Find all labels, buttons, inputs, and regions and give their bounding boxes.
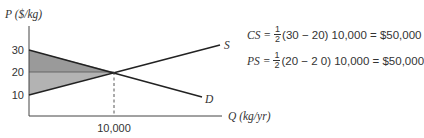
ps-rhs: (20 − 2 0) 10,000 = $50,000 xyxy=(281,55,424,67)
y-axis-label: P ($/kg) xyxy=(4,8,42,21)
demand-label: D xyxy=(204,93,214,105)
producer-surplus-equation: PS = 1 2 (20 − 2 0) 10,000 = $50,000 xyxy=(247,51,424,70)
x-tick-10000: 10,000 xyxy=(97,122,131,134)
supply-label: S xyxy=(224,39,230,51)
cs-rhs: (30 − 20) 10,000 = $50,000 xyxy=(282,29,421,41)
y-tick-10: 10 xyxy=(12,89,24,101)
consumer-surplus-equation: CS = 1 2 (30 − 20) 10,000 = $50,000 xyxy=(247,25,421,44)
x-axis-label: Q (kg/yr) xyxy=(228,110,271,123)
cs-lhs: CS = xyxy=(247,29,271,41)
y-tick-30: 30 xyxy=(12,44,24,56)
y-tick-20: 20 xyxy=(12,66,24,78)
ps-fraction: 1 2 xyxy=(273,51,280,70)
cs-fraction: 1 2 xyxy=(274,25,281,44)
ps-lhs: PS = xyxy=(247,55,270,67)
